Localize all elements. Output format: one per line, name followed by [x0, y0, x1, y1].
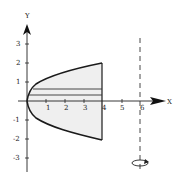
x-tick-2: 2: [64, 104, 68, 112]
x-tick-6: 6: [140, 104, 145, 112]
x-tick-5: 5: [120, 104, 124, 112]
rotation-arrow-icon: [132, 159, 149, 166]
x-tick-3: 3: [83, 104, 87, 112]
x-tick-4: 4: [102, 104, 107, 112]
volume-of-revolution-diagram: X Y 1 2 3 4 5 6 3 2 1 -1 -2 -3: [0, 0, 178, 185]
y-tick-1: 1: [16, 78, 20, 86]
y-tick-neg3: -3: [13, 154, 20, 162]
y-axis-label: Y: [24, 12, 30, 20]
y-tick-neg2: -2: [13, 135, 20, 143]
x-axis-label: X: [167, 98, 172, 106]
y-tick-neg1: -1: [13, 116, 20, 124]
shaded-region: [27, 63, 102, 140]
y-tick-3: 3: [16, 40, 20, 48]
y-tick-2: 2: [16, 59, 20, 67]
x-tick-1: 1: [46, 104, 50, 112]
